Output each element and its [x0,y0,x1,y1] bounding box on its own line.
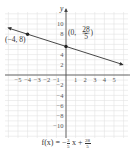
y-tick-label: −8 [57,112,64,119]
svg-text:(0,: (0, [68,28,76,37]
x-tick-label: −2 [43,76,50,83]
point-label-y-intercept: (0,285) [68,25,94,42]
formula-lhs: f(x) = − [41,138,66,147]
y-tick-label: 10 [57,20,64,27]
formula-mid: x + [72,138,83,147]
point-marker [64,45,67,48]
x-tick-label: −4 [24,76,32,83]
y-tick-label: 2 [60,61,63,68]
svg-text:): ) [91,28,94,37]
x-tick-label: 2 [84,76,87,83]
x-tick-label: 4 [103,76,107,83]
point-marker [26,33,29,36]
fraction-slope: 35 [67,138,71,149]
y-tick-label: −10 [53,122,63,129]
x-tick-label: −3 [34,76,41,83]
y-tick-label: −2 [57,81,64,88]
y-tick-label: −6 [57,102,65,109]
function-formula: f(x) = −35 x + 285 [0,138,132,149]
y-axis-label: y [59,4,64,13]
x-tick-label: 5 [112,76,115,83]
x-tick-label: −5 [15,76,22,83]
y-tick-label: 8 [60,30,63,37]
svg-text:5: 5 [84,32,88,41]
coordinate-plane: −5−4−3−2−11234510842−2−4−6−8−10 y (−4, 8… [0,0,132,138]
x-tick-label: 1 [74,76,77,83]
y-tick-label: −4 [57,92,65,99]
point-label-neg4-8: (−4, 8) [5,35,26,44]
fraction-intercept: 285 [85,138,91,149]
x-tick-label: 3 [93,76,96,83]
